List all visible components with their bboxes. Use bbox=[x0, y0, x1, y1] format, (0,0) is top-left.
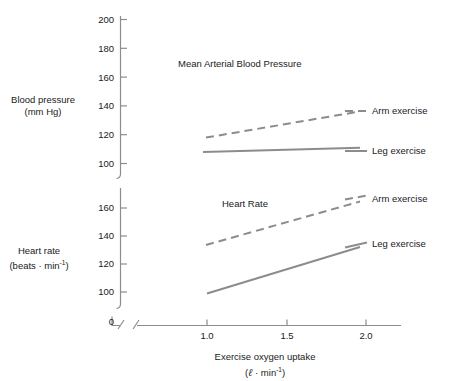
top-series-label-leg-exercise: Leg exercise bbox=[372, 145, 426, 157]
bottom-series-label-leg-exercise: Leg exercise bbox=[372, 238, 426, 250]
bottom-y-axis-title-line2: (beats · min-1) bbox=[0, 257, 78, 272]
bottom-panel-title: Heart Rate bbox=[222, 198, 268, 210]
x-axis-title-line2: (ℓ · min-1) bbox=[175, 364, 355, 379]
bottom-y-axis-title-line2-prefix: (beats · min bbox=[9, 260, 59, 271]
bottom-series-label-arm-exercise: Arm exercise bbox=[372, 193, 427, 205]
bottom-legend-key-leg bbox=[345, 243, 367, 248]
bottom-ytick-label-160: 160 bbox=[80, 202, 114, 213]
top-ytick-label-160: 160 bbox=[80, 72, 114, 83]
bottom-series-leg-exercise-line bbox=[207, 247, 360, 294]
top-y-axis-title-line2: (mm Hg) bbox=[8, 106, 78, 118]
bottom-ytick-label-0: 0 bbox=[80, 316, 114, 327]
bottom-legend-key-arm bbox=[345, 196, 367, 200]
xtick-label-2-0: 2.0 bbox=[349, 330, 383, 341]
xtick-label-1-0: 1.0 bbox=[190, 330, 224, 341]
x-axis-title-mid: · min bbox=[252, 367, 276, 378]
x-axis-title-line1: Exercise oxygen uptake bbox=[175, 351, 355, 363]
y-axis-break-slash bbox=[118, 320, 124, 329]
top-ytick-label-200: 200 bbox=[80, 14, 114, 25]
bottom-panel-axis bbox=[112, 188, 139, 329]
top-ytick-label-140: 140 bbox=[80, 100, 114, 111]
x-axis-title-paren-close: ) bbox=[282, 367, 285, 378]
bottom-ytick-label-120: 120 bbox=[80, 258, 114, 269]
bottom-y-axis-title-line1: Heart rate bbox=[0, 245, 78, 257]
top-panel-data bbox=[203, 111, 367, 152]
top-series-arm-exercise-line bbox=[206, 112, 359, 138]
x-axis-break-slash bbox=[133, 320, 139, 329]
top-series-label-arm-exercise: Arm exercise bbox=[372, 105, 427, 117]
top-axis-break-icon bbox=[117, 171, 121, 179]
bottom-panel-data bbox=[206, 196, 367, 294]
top-panel-axis bbox=[117, 16, 128, 179]
top-ytick-label-120: 120 bbox=[80, 129, 114, 140]
bottom-axis-break-icon-upper bbox=[117, 300, 121, 309]
exercise-physiology-figure: 200 180 160 140 120 100 Blood pressure (… bbox=[0, 0, 449, 381]
top-y-axis-title-line1: Blood pressure bbox=[8, 94, 78, 106]
bottom-ytick-label-100: 100 bbox=[80, 286, 114, 297]
bottom-y-axis-title-line2-suffix: ) bbox=[65, 260, 68, 271]
xtick-label-1-5: 1.5 bbox=[270, 330, 304, 341]
top-ytick-label-100: 100 bbox=[80, 158, 114, 169]
top-panel-title: Mean Arterial Blood Pressure bbox=[178, 58, 302, 70]
x-axis bbox=[137, 320, 401, 326]
bottom-ytick-label-140: 140 bbox=[80, 230, 114, 241]
top-series-leg-exercise-line bbox=[203, 148, 360, 152]
top-ytick-label-180: 180 bbox=[80, 43, 114, 54]
